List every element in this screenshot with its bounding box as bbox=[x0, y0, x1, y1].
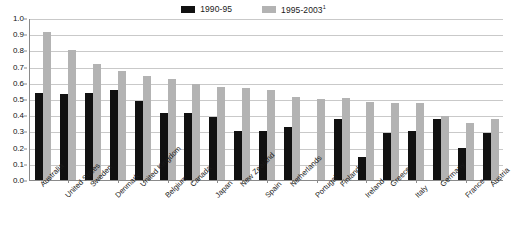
y-axis-tick-mark bbox=[24, 51, 27, 52]
bar-1995-2003-belgium bbox=[168, 79, 176, 180]
y-axis-tick-label: 0.9 bbox=[13, 31, 24, 39]
bar-1990-95-finland bbox=[334, 119, 342, 180]
y-axis: 1.00.90.80.70.60.50.40.30.20.10.0 bbox=[0, 19, 27, 181]
legend-label-1995-2003: 1995-20031 bbox=[281, 5, 326, 14]
x-axis-label-spain: Spain bbox=[264, 180, 283, 199]
y-axis-tick-mark bbox=[24, 132, 27, 133]
bar-1995-2003-italy bbox=[416, 103, 424, 180]
bar-group bbox=[478, 19, 503, 180]
y-axis-tick-label: 0.7 bbox=[13, 64, 24, 72]
legend-item-1995-2003: 1995-20031 bbox=[262, 5, 326, 14]
y-axis-tick-label: 0.0 bbox=[13, 177, 24, 185]
y-axis-tick-label: 0.2 bbox=[13, 145, 24, 153]
bar-1995-2003-portugal bbox=[317, 99, 325, 180]
legend-label-1990-95: 1990-95 bbox=[200, 5, 232, 14]
bar-1995-2003-canada bbox=[192, 84, 200, 180]
legend-text-1990-95: 1990-95 bbox=[200, 4, 232, 14]
bar-group bbox=[354, 19, 379, 180]
legend-swatch-1990-95 bbox=[181, 6, 195, 13]
y-axis-tick-label: 0.8 bbox=[13, 47, 24, 55]
y-axis-tick-label: 0.6 bbox=[13, 80, 24, 88]
legend-swatch-1995-2003 bbox=[262, 6, 276, 13]
bar-group bbox=[329, 19, 354, 180]
bar-group bbox=[81, 19, 106, 180]
bar-1995-2003-austria bbox=[491, 119, 499, 180]
bar-1995-2003-ireland bbox=[366, 102, 374, 180]
y-axis-tick-mark bbox=[24, 35, 27, 36]
bar-1995-2003-australia bbox=[43, 32, 51, 180]
bar-1995-2003-netherlands bbox=[292, 97, 300, 180]
bar-1995-2003-japan bbox=[217, 87, 225, 180]
x-axis-label-italy: Italy bbox=[414, 184, 429, 199]
y-axis-tick-label: 0.5 bbox=[13, 96, 24, 104]
bar-1990-95-new-zealand bbox=[234, 131, 242, 180]
x-axis: AustraliaUnited StatesSwedenDenmarkUnite… bbox=[29, 183, 503, 240]
bar-1990-95-australia bbox=[35, 93, 43, 180]
y-axis-tick-label: 0.3 bbox=[13, 128, 24, 136]
bar-group bbox=[279, 19, 304, 180]
legend-text-1995-2003: 1995-2003 bbox=[281, 5, 323, 15]
y-axis-tick-mark bbox=[24, 116, 27, 117]
chart-legend: 1990-95 1995-20031 bbox=[0, 2, 507, 17]
bar-1995-2003-spain bbox=[267, 90, 275, 180]
x-axis-label-japan: Japan bbox=[214, 179, 234, 199]
bar-group bbox=[106, 19, 131, 180]
legend-item-1990-95: 1990-95 bbox=[181, 5, 232, 14]
bar-group bbox=[205, 19, 230, 180]
bar-1990-95-united-kingdom bbox=[135, 101, 143, 180]
y-axis-tick-mark bbox=[24, 148, 27, 149]
y-axis-tick-mark bbox=[24, 19, 27, 20]
bar-group bbox=[130, 19, 155, 180]
bar-group bbox=[230, 19, 255, 180]
bar-group bbox=[31, 19, 56, 180]
bar-1995-2003-greece bbox=[391, 103, 399, 180]
bar-1995-2003-united-states bbox=[68, 50, 76, 180]
bar-group bbox=[379, 19, 404, 180]
y-axis-tick-mark bbox=[24, 67, 27, 68]
bar-1990-95-canada bbox=[184, 113, 192, 180]
bar-group bbox=[180, 19, 205, 180]
bar-group bbox=[453, 19, 478, 180]
y-axis-tick-label: 0.1 bbox=[13, 161, 24, 169]
bar-1990-95-greece bbox=[383, 133, 391, 180]
bar-1995-2003-france bbox=[466, 123, 474, 181]
bar-1990-95-netherlands bbox=[284, 127, 292, 180]
y-axis-tick-label: 0.4 bbox=[13, 112, 24, 120]
bar-1990-95-austria bbox=[483, 133, 491, 180]
bar-1995-2003-united-kingdom bbox=[143, 76, 151, 180]
y-axis-tick-mark bbox=[24, 164, 27, 165]
bar-group bbox=[429, 19, 454, 180]
y-axis-tick-mark bbox=[24, 100, 27, 101]
legend-footnote-marker: 1 bbox=[323, 4, 326, 10]
y-axis-tick-mark bbox=[24, 181, 27, 182]
bar-group bbox=[56, 19, 81, 180]
bar-group bbox=[404, 19, 429, 180]
bar-1995-2003-germany bbox=[441, 116, 449, 180]
bar-1995-2003-new-zealand bbox=[242, 88, 250, 180]
bar-1990-95-germany bbox=[433, 119, 441, 180]
y-axis-tick-mark bbox=[24, 83, 27, 84]
bar-1995-2003-finland bbox=[342, 98, 350, 180]
y-axis-tick-label: 1.0 bbox=[13, 15, 24, 23]
bar-1995-2003-denmark bbox=[118, 71, 126, 180]
